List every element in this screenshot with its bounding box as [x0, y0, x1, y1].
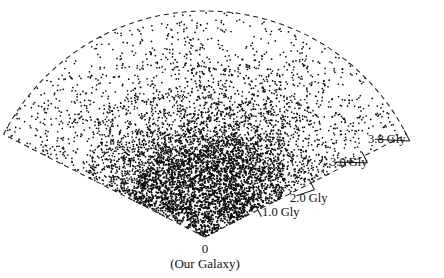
galaxy-point	[124, 178, 126, 180]
galaxy-point	[46, 150, 48, 152]
galaxy-point	[178, 151, 180, 153]
galaxy-point	[281, 143, 283, 145]
galaxy-point	[200, 81, 202, 83]
galaxy-point	[189, 142, 191, 144]
galaxy-point	[269, 178, 271, 180]
galaxy-point	[358, 129, 360, 131]
galaxy-point	[304, 99, 306, 101]
galaxy-point	[271, 129, 273, 131]
galaxy-point	[114, 163, 116, 165]
galaxy-point	[291, 117, 293, 119]
galaxy-point	[230, 133, 232, 135]
galaxy-point	[220, 170, 222, 172]
galaxy-point	[302, 63, 304, 65]
galaxy-point	[57, 85, 59, 87]
galaxy-point	[161, 170, 163, 172]
galaxy-point	[177, 32, 179, 34]
galaxy-point	[93, 101, 95, 103]
galaxy-point	[142, 141, 144, 143]
galaxy-point	[254, 143, 256, 145]
galaxy-point	[132, 82, 134, 84]
galaxy-point	[206, 211, 208, 213]
galaxy-point	[241, 198, 243, 200]
galaxy-point	[197, 66, 199, 68]
galaxy-point	[211, 166, 213, 168]
galaxy-point	[238, 68, 240, 70]
galaxy-point	[237, 185, 239, 187]
galaxy-point	[217, 107, 219, 109]
galaxy-point	[214, 163, 216, 165]
galaxy-point	[233, 165, 235, 167]
galaxy-point	[276, 160, 278, 162]
galaxy-point	[197, 182, 199, 184]
galaxy-point	[250, 207, 252, 209]
galaxy-point	[166, 204, 168, 206]
galaxy-point	[235, 188, 237, 190]
galaxy-point	[230, 183, 232, 185]
galaxy-point	[344, 140, 346, 142]
galaxy-point	[260, 148, 262, 150]
galaxy-point	[143, 115, 145, 117]
galaxy-point	[213, 192, 215, 194]
galaxy-point	[93, 152, 95, 154]
galaxy-point	[222, 203, 224, 205]
galaxy-point	[110, 177, 112, 179]
galaxy-point	[197, 89, 199, 91]
galaxy-point	[199, 228, 201, 230]
galaxy-point	[226, 136, 228, 138]
galaxy-point	[80, 105, 82, 107]
galaxy-point	[93, 133, 95, 135]
galaxy-point	[68, 114, 70, 116]
galaxy-point	[252, 160, 254, 162]
galaxy-point	[133, 54, 135, 56]
galaxy-point	[89, 104, 91, 106]
galaxy-point	[134, 151, 136, 153]
galaxy-point	[128, 154, 130, 156]
galaxy-point	[204, 215, 206, 217]
galaxy-point	[225, 68, 227, 70]
galaxy-point	[64, 78, 66, 80]
galaxy-point	[196, 86, 198, 88]
galaxy-point	[260, 159, 262, 161]
galaxy-point	[293, 45, 295, 47]
galaxy-point	[134, 198, 136, 200]
galaxy-point	[168, 207, 170, 209]
galaxy-point	[143, 145, 145, 147]
galaxy-point	[224, 115, 226, 117]
galaxy-point	[266, 52, 268, 54]
galaxy-point	[251, 169, 253, 171]
galaxy-point	[164, 142, 166, 144]
galaxy-point	[210, 187, 212, 189]
galaxy-point	[177, 108, 179, 110]
galaxy-point	[120, 183, 122, 185]
galaxy-point	[289, 153, 291, 155]
galaxy-point	[187, 187, 189, 189]
galaxy-point	[68, 143, 70, 145]
galaxy-point	[201, 65, 203, 67]
galaxy-point	[157, 162, 159, 164]
galaxy-point	[174, 105, 176, 107]
galaxy-point	[254, 100, 256, 102]
galaxy-point	[207, 148, 209, 150]
galaxy-point	[75, 122, 77, 124]
galaxy-point	[255, 85, 257, 87]
galaxy-point	[235, 122, 237, 124]
galaxy-point	[273, 114, 275, 116]
galaxy-point	[201, 111, 203, 113]
galaxy-point	[106, 165, 108, 167]
galaxy-point	[103, 134, 105, 136]
galaxy-point	[105, 145, 107, 147]
galaxy-point	[329, 147, 331, 149]
galaxy-point	[158, 113, 160, 115]
galaxy-point	[196, 197, 198, 199]
galaxy-point	[218, 228, 220, 230]
galaxy-point	[281, 176, 283, 178]
galaxy-point	[85, 93, 87, 95]
galaxy-point	[203, 30, 205, 32]
galaxy-point	[157, 211, 159, 213]
galaxy-point	[105, 90, 107, 92]
galaxy-point	[331, 62, 333, 64]
galaxy-point	[276, 75, 278, 77]
galaxy-point	[307, 145, 309, 147]
galaxy-point	[123, 147, 125, 149]
